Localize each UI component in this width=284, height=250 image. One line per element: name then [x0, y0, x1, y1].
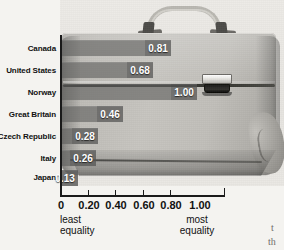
- most-equality-line-2: equality: [180, 225, 214, 236]
- x-tick-0: [60, 188, 61, 196]
- x-tick-label-0.80: 0.80: [160, 199, 181, 211]
- least-equality-line-1: least: [60, 214, 94, 225]
- bar-chart: Canada United States Norway Great Britai…: [0, 0, 284, 250]
- bar-value-united-states: 0.68: [130, 65, 150, 76]
- category-label-norway: Norway: [28, 88, 56, 98]
- axis-annotation-most-equality: most equality: [180, 214, 214, 236]
- page-text-fragment-1: t: [271, 222, 274, 233]
- y-axis-line: [60, 35, 62, 196]
- bar-value-great-britain: 0.46: [100, 109, 120, 120]
- bar-italy: 0.26: [60, 150, 96, 166]
- bar-value-czech-republic: 0.28: [75, 131, 95, 142]
- most-equality-line-1: most: [180, 214, 214, 225]
- bar-canada: 0.81: [60, 40, 171, 56]
- x-tick-0.40: [115, 190, 116, 196]
- bar-norway: 1.00: [60, 84, 197, 100]
- x-tick-label-0: 0: [58, 199, 64, 211]
- bar-value-japan: 0.13: [55, 173, 75, 184]
- x-tick-0.20: [88, 190, 89, 196]
- x-tick-label-1.00: 1.00: [189, 199, 210, 211]
- category-label-canada: Canada: [28, 44, 56, 54]
- category-label-czech-republic: Czech Republic: [0, 132, 56, 142]
- figure-root: Canada United States Norway Great Britai…: [0, 0, 284, 250]
- bar-value-norway: 1.00: [174, 87, 194, 98]
- x-tick-label-0.60: 0.60: [133, 199, 154, 211]
- page-text-fragment-2: th: [268, 236, 276, 247]
- bar-japan: 0.13: [60, 170, 78, 186]
- bar-united-states: 0.68: [60, 62, 153, 78]
- axis-annotation-least-equality: least equality: [60, 214, 94, 236]
- category-label-italy: Italy: [40, 154, 56, 164]
- category-label-united-states: United States: [6, 66, 56, 76]
- category-axis-labels: Canada United States Norway Great Britai…: [0, 0, 60, 186]
- category-label-japan: Japan: [33, 173, 56, 183]
- bar-value-canada: 0.81: [148, 43, 168, 54]
- bar-value-italy: 0.26: [73, 153, 93, 164]
- bar-czech-republic: 0.28: [60, 128, 98, 144]
- x-tick-0.60: [143, 190, 144, 196]
- least-equality-line-2: equality: [60, 225, 94, 236]
- category-label-great-britain: Great Britain: [9, 110, 56, 120]
- x-tick-label-0.40: 0.40: [105, 199, 126, 211]
- x-tick-0.80: [170, 190, 171, 196]
- bar-great-britain: 0.46: [60, 106, 123, 122]
- x-tick-label-0.20: 0.20: [78, 199, 99, 211]
- x-axis-end-cap: [224, 188, 225, 196]
